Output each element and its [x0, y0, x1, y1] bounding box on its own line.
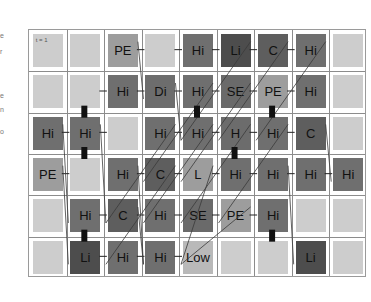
- grid-cell: SE: [179, 195, 217, 236]
- grid-cell: Di: [142, 71, 180, 112]
- grid-cell: [329, 113, 367, 154]
- state-tile: Hi: [183, 34, 213, 67]
- grid-cell: L: [179, 154, 217, 195]
- grid-cell: Hi: [104, 237, 142, 278]
- edge-text: r: [0, 48, 6, 55]
- grid-cell: Hi: [104, 154, 142, 195]
- empty-tile: [145, 34, 175, 67]
- state-tile: PE: [258, 75, 288, 108]
- empty-tile: [221, 241, 251, 274]
- state-tile: Hi: [70, 117, 100, 150]
- grid-cell: Hi: [254, 113, 292, 154]
- state-tile: SE: [183, 199, 213, 232]
- grid-cell: Li: [292, 237, 330, 278]
- grid-cell: Hi: [329, 154, 367, 195]
- empty-tile: [108, 117, 138, 150]
- grid-cell: Hi: [179, 113, 217, 154]
- empty-tile: [70, 34, 100, 67]
- state-tile: C: [258, 34, 288, 67]
- state-grid: t = 1PEHiLiCHiHiDiHiSEPEHiHiHiHiHiHHiCPE…: [28, 29, 366, 277]
- grid-cell: PE: [217, 195, 255, 236]
- grid-cell: [67, 30, 105, 71]
- grid-cell: [29, 237, 67, 278]
- grid-cell: Hi: [292, 154, 330, 195]
- grid-cell: PE: [29, 154, 67, 195]
- state-tile: Hi: [221, 158, 251, 191]
- edge-text: n: [0, 106, 6, 113]
- edge-text: o: [0, 128, 6, 135]
- state-tile: Hi: [145, 199, 175, 232]
- grid-cell: Hi: [142, 113, 180, 154]
- grid-cell: [217, 237, 255, 278]
- edge-text: e: [0, 92, 6, 99]
- grid-cell: SE: [217, 71, 255, 112]
- grid-cell: [67, 71, 105, 112]
- grid-cell: Hi: [254, 154, 292, 195]
- state-tile: PE: [108, 34, 138, 67]
- grid-cell: [329, 195, 367, 236]
- state-tile: Hi: [108, 158, 138, 191]
- empty-tile: [258, 241, 288, 274]
- state-tile: Low: [183, 241, 213, 274]
- state-tile: Li: [70, 241, 100, 274]
- grid-cell: C: [104, 195, 142, 236]
- state-tile: Hi: [296, 34, 326, 67]
- state-tile: Hi: [145, 241, 175, 274]
- grid-cell: [142, 30, 180, 71]
- empty-tile: t = 1: [33, 34, 63, 67]
- grid-cell: C: [292, 113, 330, 154]
- grid-cell: t = 1: [29, 30, 67, 71]
- grid-cell: [67, 154, 105, 195]
- empty-tile: [33, 75, 63, 108]
- state-tile: Di: [145, 75, 175, 108]
- state-tile: Li: [296, 241, 326, 274]
- grid-cell: [329, 237, 367, 278]
- grid-cell: PE: [104, 30, 142, 71]
- grid-cell: Hi: [179, 30, 217, 71]
- grid-cell: [104, 113, 142, 154]
- empty-tile: [333, 199, 363, 232]
- grid-cell: [329, 71, 367, 112]
- state-tile: C: [296, 117, 326, 150]
- state-tile: Hi: [258, 117, 288, 150]
- state-tile: Li: [221, 34, 251, 67]
- state-tile: SE: [221, 75, 251, 108]
- empty-tile: [70, 158, 100, 191]
- grid-cell: Hi: [179, 71, 217, 112]
- state-tile: H: [221, 117, 251, 150]
- empty-tile: [33, 199, 63, 232]
- empty-tile: [33, 241, 63, 274]
- grid-cell: Hi: [142, 195, 180, 236]
- grid-cell: Hi: [67, 113, 105, 154]
- grid-cell: PE: [254, 71, 292, 112]
- grid-cell: C: [142, 154, 180, 195]
- empty-tile: [70, 75, 100, 108]
- grid-cell: [254, 237, 292, 278]
- state-tile: Hi: [145, 117, 175, 150]
- state-tile: Hi: [296, 158, 326, 191]
- empty-tile: [296, 199, 326, 232]
- empty-tile: [333, 75, 363, 108]
- grid-cell: H: [217, 113, 255, 154]
- state-tile: C: [108, 199, 138, 232]
- grid-cell: [329, 30, 367, 71]
- state-tile: Hi: [108, 241, 138, 274]
- grid-cell: Low: [179, 237, 217, 278]
- state-tile: Hi: [70, 199, 100, 232]
- grid-cell: [292, 195, 330, 236]
- edge-text: e: [0, 32, 6, 39]
- grid-cell: Hi: [254, 195, 292, 236]
- grid-cell: Hi: [67, 195, 105, 236]
- state-tile: Hi: [33, 117, 63, 150]
- empty-tile: [333, 117, 363, 150]
- state-tile: PE: [221, 199, 251, 232]
- state-tile: Hi: [258, 158, 288, 191]
- empty-tile: [333, 241, 363, 274]
- state-tile: L: [183, 158, 213, 191]
- grid-cell: Hi: [292, 30, 330, 71]
- state-tile: Hi: [296, 75, 326, 108]
- state-tile: C: [145, 158, 175, 191]
- state-tile: Hi: [258, 199, 288, 232]
- state-tile: Hi: [183, 117, 213, 150]
- grid-cell: [29, 71, 67, 112]
